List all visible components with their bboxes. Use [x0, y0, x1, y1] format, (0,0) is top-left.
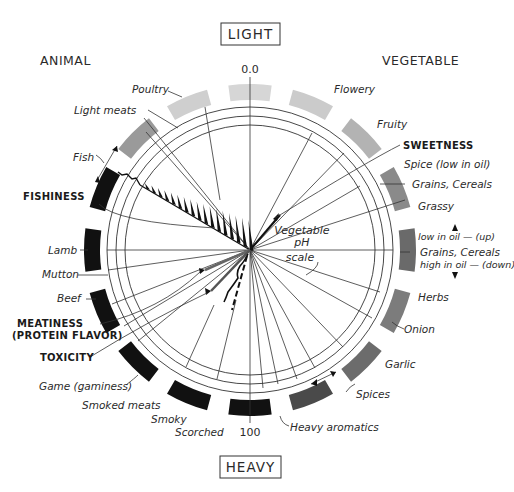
label-flowery: Flowery	[334, 83, 376, 95]
label-mutton: Mutton	[42, 268, 79, 280]
hatch-tooth	[236, 215, 241, 243]
label-beef: Beef	[57, 292, 83, 304]
label-low-in-oil: low in oil — (up)	[418, 231, 495, 242]
light-title: LIGHT	[228, 26, 273, 42]
block-spices	[289, 380, 333, 410]
fishiness-vector	[140, 185, 250, 250]
label-sweetness: SWEETNESS	[403, 140, 474, 151]
toxicity-vector	[211, 250, 250, 291]
label-grassy: Grassy	[418, 200, 455, 212]
radial-lines	[108, 107, 405, 388]
hatch-tooth	[229, 213, 234, 239]
label-toxicity: TOXICITY	[40, 352, 94, 363]
block-grains-cereals	[380, 167, 410, 211]
block-smoky	[167, 380, 211, 410]
animal-heading: ANIMAL	[40, 53, 91, 68]
hatch-tooth	[197, 202, 202, 221]
scale-min-label: 0.0	[241, 63, 259, 76]
block-flowery	[289, 90, 333, 120]
flavor-wheel-diagram: LIGHT HEAVY ANIMAL VEGETABLE 0.0 100	[0, 0, 514, 492]
label-fishiness: FISHINESS	[23, 191, 85, 202]
spices-arrow-down-icon	[311, 379, 317, 386]
hatch-tooth	[190, 199, 195, 216]
label-spices: Spices	[356, 388, 390, 400]
label-poultry: Poultry	[132, 83, 170, 95]
label-meatiness: MEATINESS	[17, 318, 83, 329]
label-heavy-aromatics: Heavy aromatics	[290, 421, 379, 433]
label-garlic: Garlic	[385, 358, 416, 370]
hatch-tooth	[184, 197, 189, 213]
label-smoky: Smoky	[151, 413, 187, 425]
spices-arrow-up-icon	[330, 371, 336, 377]
label-high-in-oil: high in oil — (down)	[420, 259, 514, 270]
label-fish: Fish	[73, 151, 94, 163]
down-triangle-icon	[452, 272, 458, 279]
hatch-tooth	[203, 204, 208, 224]
label-onion: Onion	[404, 323, 435, 335]
label-scale: scale	[286, 251, 315, 264]
block-poultry	[167, 90, 211, 120]
scale-max-label: 100	[240, 426, 261, 439]
heavy-title: HEAVY	[226, 459, 276, 475]
label-grains-cereals: Grains, Cereals	[412, 178, 493, 190]
label-game: Game (gaminess)	[39, 380, 132, 392]
block-game	[118, 341, 158, 381]
fishiness-hatched-wedge	[140, 183, 254, 251]
label-grains-oil: Grains, Cereals	[420, 246, 501, 258]
vegetable-heading: VEGETABLE	[382, 53, 459, 68]
block-grains-oil	[399, 228, 416, 271]
block-beef	[90, 289, 120, 333]
label-protein-flavor: (PROTEIN FLAVOR)	[12, 330, 123, 341]
block-garlic	[341, 341, 381, 381]
block-fish	[90, 167, 120, 211]
heavy-title-box: HEAVY	[220, 456, 281, 478]
fish-arrow-up-icon	[112, 146, 118, 152]
hatch-tooth	[242, 218, 247, 247]
label-light-meats: Light meats	[74, 104, 137, 116]
label-ph: pH	[293, 236, 309, 249]
label-scorched: Scorched	[175, 426, 224, 438]
label-smoked-meats: Smoked meats	[82, 399, 161, 411]
label-herbs: Herbs	[418, 291, 449, 303]
label-lamb: Lamb	[48, 244, 78, 256]
block-fruity	[341, 118, 381, 158]
label-spice-low-oil: Spice (low in oil)	[404, 158, 490, 170]
block-light-meats	[118, 118, 158, 158]
light-title-box: LIGHT	[221, 23, 280, 45]
hatch-tooth	[216, 209, 221, 232]
up-triangle-icon	[452, 224, 458, 231]
label-fruity: Fruity	[377, 118, 408, 130]
